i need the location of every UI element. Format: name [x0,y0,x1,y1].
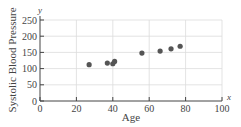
x-tick-label: 40 [108,103,118,114]
x-axis-title: Age [122,111,140,123]
scatter-chart: 050100150200250020406080100 Age Systolic… [0,0,241,127]
data-point [139,50,144,55]
x-tick-label: 100 [215,103,230,114]
data-points [87,44,183,68]
data-point [168,46,173,51]
y-axis-variable: y [37,5,42,15]
x-tick-label: 60 [144,103,154,114]
data-point [158,49,163,54]
y-tick-label: 100 [22,63,37,74]
tick-labels: 050100150200250020406080100 [22,15,230,115]
data-point [178,44,183,49]
y-tick-label: 250 [22,15,37,26]
x-axis-variable: x [226,92,231,102]
data-point [105,60,110,65]
x-tick-label: 0 [38,103,43,114]
y-tick-label: 0 [32,96,37,107]
x-tick-label: 80 [181,103,191,114]
x-tick-label: 20 [71,103,81,114]
y-tick-label: 200 [22,31,37,42]
data-point [87,62,92,67]
y-axis-title: Systolic Blood Pressure [6,7,18,112]
y-tick-label: 50 [27,79,37,90]
y-tick-label: 150 [22,47,37,58]
grid-lines [40,20,222,101]
data-point [112,59,117,64]
axes [40,16,222,101]
